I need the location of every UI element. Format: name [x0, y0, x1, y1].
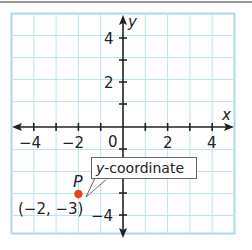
callout-pointer	[86, 178, 108, 197]
y-tick-label: −4	[91, 207, 113, 225]
point-p-marker	[74, 190, 82, 198]
x-tick-label: 0	[108, 133, 118, 151]
y-tick-label: 4	[104, 30, 114, 48]
x-tick-label: 4	[207, 134, 217, 152]
x-axis-label: x	[221, 106, 231, 124]
point-coordinates-label: (−2, −3)	[18, 200, 83, 218]
x-tick-label: 2	[163, 134, 173, 152]
coordinate-plane: y x −4 −2 0 2 4 4 2 −4 P (−2, −3)	[0, 0, 252, 250]
x-tick-label: −4	[19, 134, 41, 152]
callout-text: -coordinate	[104, 160, 184, 176]
y-axis-label: y	[127, 13, 138, 31]
y-tick-label: 2	[104, 74, 114, 92]
point-name-label: P	[73, 172, 83, 191]
x-tick-label: −2	[62, 134, 84, 152]
y-coordinate-callout: y-coordinate	[91, 157, 197, 179]
